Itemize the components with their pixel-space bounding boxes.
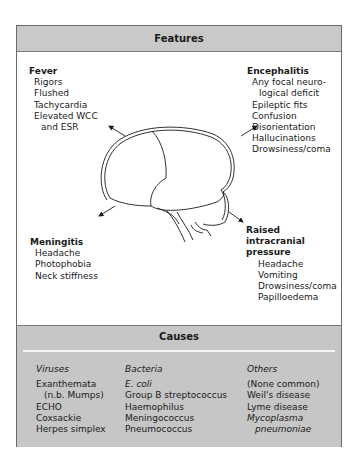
bacteria-item: E. coli [125, 379, 227, 390]
others-item: Lyme disease [247, 402, 320, 413]
viruses-heading: Viruses [36, 364, 106, 375]
bacteria-heading: Bacteria [125, 364, 227, 375]
others-item: (None common) [247, 379, 320, 390]
brain-illustration [17, 26, 343, 326]
causes-header: Causes [17, 326, 341, 348]
causes-section: Causes Viruses Exanthemata (n.b. Mumps) … [17, 325, 341, 447]
virus-item: Herpes simplex [36, 424, 106, 435]
others-heading: Others [247, 364, 320, 375]
bacteria-item: Group B streptococcus [125, 390, 227, 401]
viruses-column: Viruses Exanthemata (n.b. Mumps) ECHO Co… [36, 364, 106, 435]
diagram-frame: Features Fever Rigors Flushed Tachycardi… [16, 25, 342, 447]
others-item: pneumoniae [247, 424, 320, 435]
bacteria-item: Pneumococcus [125, 424, 227, 435]
causes-divider [23, 350, 335, 352]
bacteria-item: Haemophilus [125, 402, 227, 413]
bacteria-item: Meningococcus [125, 413, 227, 424]
virus-item: ECHO [36, 402, 106, 413]
virus-item: Exanthemata [36, 379, 106, 390]
virus-item: Coxsackie [36, 413, 106, 424]
virus-item: (n.b. Mumps) [36, 390, 106, 401]
others-item: Mycoplasma [247, 413, 320, 424]
others-item: Weil's disease [247, 390, 320, 401]
bacteria-column: Bacteria E. coli Group B streptococcus H… [125, 364, 227, 435]
others-column: Others (None common) Weil's disease Lyme… [247, 364, 320, 435]
